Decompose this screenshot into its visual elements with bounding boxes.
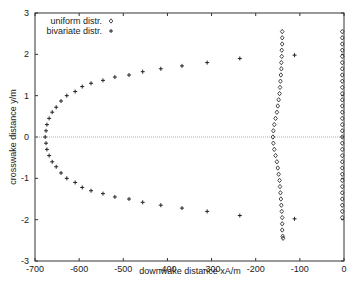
legend: uniform distr. bivariate distr. — [46, 16, 113, 36]
y-axis-label: crosswake distance y/m — [8, 89, 18, 185]
x-tick-label: -500 — [114, 264, 132, 274]
axis-ticks: -700-600-500-400-300-200-1000-3-2-10123 — [21, 8, 347, 274]
y-tick-label: -2 — [21, 215, 29, 225]
series-uniform-distribution — [271, 29, 344, 240]
x-tick-label: -600 — [70, 264, 88, 274]
x-tick-label: -200 — [247, 264, 265, 274]
x-axis-label: downwake distance xA/m — [139, 266, 241, 276]
legend-plus-icon — [109, 29, 113, 33]
legend-label-uniform: uniform distr. — [50, 16, 102, 26]
y-tick-label: 0 — [24, 132, 29, 142]
y-tick-label: -1 — [21, 173, 29, 183]
legend-diamond-icon — [109, 19, 113, 23]
x-tick-label: 0 — [341, 264, 346, 274]
y-tick-label: 1 — [24, 91, 29, 101]
scatter-chart: -700-600-500-400-300-200-1000-3-2-10123 … — [0, 0, 356, 289]
x-tick-label: -100 — [291, 264, 309, 274]
y-tick-label: -3 — [21, 256, 29, 266]
y-tick-label: 2 — [24, 49, 29, 59]
legend-label-bivariate: bivariate distr. — [46, 26, 102, 36]
y-tick-label: 3 — [24, 8, 29, 18]
